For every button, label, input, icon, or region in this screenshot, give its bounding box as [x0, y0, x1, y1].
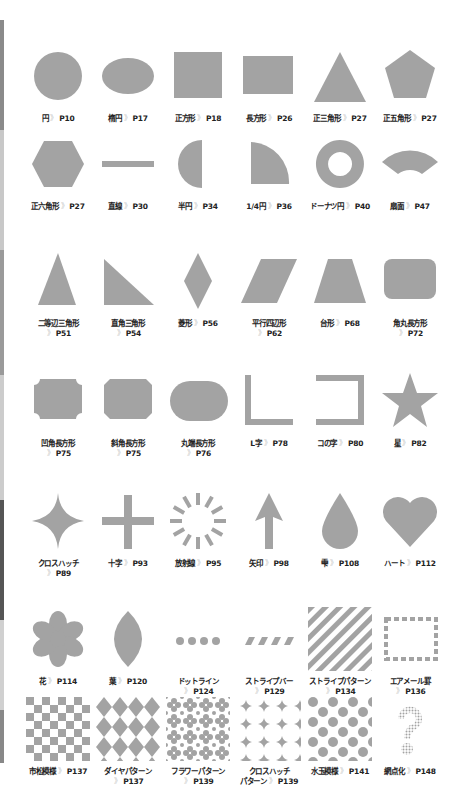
shape-item-square: 正方形》P18 — [164, 44, 232, 124]
shape-item-fan: 扇面》P47 — [376, 132, 444, 212]
shape-label: 1/4円》P36 — [235, 202, 303, 212]
dot-line-icon — [166, 607, 230, 671]
shape-label: 十字》P93 — [94, 559, 162, 569]
shape-item-cross: 十字》P93 — [94, 489, 162, 569]
shape-item-diamond-pattern: ダイヤパターン》P137 — [94, 697, 162, 787]
page-number: P75 — [56, 449, 71, 458]
shape-label: ハート》P112 — [376, 559, 444, 569]
page-number: P108 — [339, 559, 359, 568]
pentagon-icon — [378, 44, 442, 108]
page-number: P139 — [278, 777, 298, 786]
cross-icon — [96, 489, 160, 553]
shape-name: ストライプバー — [245, 677, 293, 686]
edge-tab — [0, 20, 4, 130]
parallelogram-icon — [237, 249, 301, 313]
page-number: P89 — [56, 569, 71, 578]
shape-label: 雫》P108 — [306, 559, 374, 569]
page-ref-arrow-icon: 》 — [406, 202, 413, 211]
page-ref-arrow-icon: 》 — [124, 114, 131, 123]
page-number: P93 — [133, 559, 148, 568]
polka-dot-pattern-icon — [308, 697, 372, 761]
bracket-icon — [308, 369, 372, 433]
page-number: P27 — [69, 202, 84, 211]
page-ref-arrow-icon: 》 — [50, 114, 57, 123]
shape-name: クロスハッチ — [249, 767, 290, 776]
shape-name: ストライプパターン — [309, 677, 370, 686]
shape-item-radial-lines: 放射線》P95 — [164, 489, 232, 569]
flower-icon — [26, 607, 90, 671]
shape-label: 花》P114 — [24, 677, 92, 687]
shape-item-beveled-rectangle: 斜角長方形》P75 — [94, 369, 162, 459]
page-number: P139 — [193, 777, 213, 786]
page-ref-arrow-icon: 》 — [117, 449, 124, 458]
shape-label: 菱形》P56 — [164, 319, 232, 329]
shape-item-star: 星》P82 — [376, 369, 444, 449]
shape-item-halftone-question: 網点化》P148 — [376, 697, 444, 777]
shape-item-l-shape: L字》P78 — [235, 369, 303, 449]
shape-name: フラワーパターン — [171, 767, 225, 776]
page-number: P129 — [264, 687, 284, 696]
shape-label: エアメール罫》P136 — [376, 677, 444, 697]
shape-label: 平行四辺形》P62 — [235, 319, 303, 339]
page-number: P80 — [348, 439, 363, 448]
shape-item-notched-rectangle: 凹角長方形》P75 — [24, 369, 92, 459]
page-number: P10 — [59, 114, 74, 123]
shape-name: 雫 — [321, 559, 328, 568]
page-number: P148 — [415, 767, 435, 776]
page-ref-arrow-icon: 》 — [184, 777, 191, 786]
page-ref-arrow-icon: 》 — [114, 777, 121, 786]
page-ref-arrow-icon: 》 — [346, 202, 353, 211]
shape-label: フラワーパターン》P139 — [164, 767, 232, 787]
page-number: P34 — [203, 202, 218, 211]
shape-label: 丸端長方形》P76 — [164, 439, 232, 459]
shape-name: 花 — [39, 677, 46, 686]
page-ref-arrow-icon: 》 — [58, 767, 65, 776]
shape-item-checker-pattern: 市松模様》P137 — [24, 697, 92, 777]
page-ref-arrow-icon: 》 — [117, 329, 124, 338]
shape-label: 放射線》P95 — [164, 559, 232, 569]
shape-name: 二等辺三角形 — [38, 319, 79, 328]
star-icon — [378, 369, 442, 433]
shape-item-hexagon: 正六角形》P27 — [24, 132, 92, 212]
shape-item-polka-dot-pattern: 水玉模様》P141 — [306, 697, 374, 777]
page-ref-arrow-icon: 》 — [264, 439, 271, 448]
shape-name: 直角三角形 — [111, 319, 145, 328]
ellipse-icon — [96, 44, 160, 108]
page-number: P137 — [67, 767, 87, 776]
page-ref-arrow-icon: 》 — [407, 767, 414, 776]
page-number: P18 — [206, 114, 221, 123]
page-number: P120 — [127, 677, 147, 686]
page-ref-arrow-icon: 》 — [402, 439, 409, 448]
shape-item-leaf: 葉》P120 — [94, 607, 162, 687]
page-ref-arrow-icon: 》 — [326, 687, 333, 696]
airmail-border-icon — [378, 607, 442, 671]
shape-item-stripe-bar: ストライプバー》P129 — [235, 607, 303, 697]
shape-name: 十字 — [108, 559, 122, 568]
page-ref-arrow-icon: 》 — [194, 202, 201, 211]
shape-item-triangle: 正三角形》P27 — [306, 44, 374, 124]
shape-item-drop: 雫》P108 — [306, 489, 374, 569]
beveled-rectangle-icon — [96, 369, 160, 433]
page-number: P68 — [345, 319, 360, 328]
rounded-rectangle-icon — [378, 249, 442, 313]
page-ref-arrow-icon: 》 — [47, 329, 54, 338]
page-number: P124 — [193, 687, 213, 696]
shape-label: 正五角形》P27 — [376, 114, 444, 124]
diamond-pattern-icon — [96, 697, 160, 761]
crosshatch-pattern-icon — [237, 697, 301, 761]
shape-name: 1/4円 — [246, 202, 265, 211]
shape-item-pentagon: 正五角形》P27 — [376, 44, 444, 124]
page-ref-arrow-icon: 》 — [48, 677, 55, 686]
shape-item-crosshatch-pattern: クロスハッチパターン》P139 — [235, 697, 303, 787]
shape-label: 円》P10 — [24, 114, 92, 124]
shape-item-flower: 花》P114 — [24, 607, 92, 687]
shape-item-dot-line: ドットライン》P124 — [164, 607, 232, 697]
hexagon-icon — [26, 132, 90, 196]
heart-icon — [378, 489, 442, 553]
page-number: P134 — [335, 687, 355, 696]
edge-tab — [0, 620, 4, 710]
shape-name: 網点化 — [384, 767, 404, 776]
shape-name-cont: パターン — [240, 777, 267, 786]
shape-item-isosceles-triangle: 二等辺三角形》P51 — [24, 249, 92, 339]
shape-label: 角丸長方形》P72 — [376, 319, 444, 339]
